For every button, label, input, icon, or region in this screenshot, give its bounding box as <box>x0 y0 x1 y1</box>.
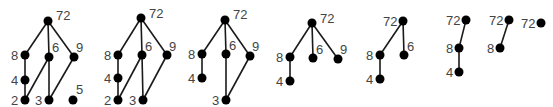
node-label: 4 <box>104 71 111 86</box>
node-3 <box>222 96 231 105</box>
node-72 <box>537 19 546 28</box>
node-label: 8 <box>276 50 283 65</box>
node-label: 6 <box>145 39 152 54</box>
node-label: 4 <box>11 73 18 88</box>
hasse-7: 728 <box>487 13 514 56</box>
edge-72-8 <box>118 18 141 55</box>
node-label: 2 <box>11 93 18 107</box>
node-label: 8 <box>487 41 494 56</box>
node-label: 6 <box>229 38 236 53</box>
node-4 <box>376 75 385 84</box>
node-8 <box>21 51 30 60</box>
node-72 <box>505 16 514 25</box>
edge-9-3 <box>226 56 250 100</box>
node-label: 9 <box>76 40 83 55</box>
node-8 <box>114 51 123 60</box>
node-label: 72 <box>383 14 397 29</box>
edge-9-3 <box>143 55 167 100</box>
node-label: 5 <box>76 82 83 97</box>
node-72 <box>399 17 408 26</box>
node-label: 72 <box>56 8 70 23</box>
node-label: 8 <box>366 48 373 63</box>
hasse-diagram-sequence: 7286942357286942372869437286947286472847… <box>0 0 553 107</box>
node-label: 72 <box>446 13 460 28</box>
node-8 <box>376 51 385 60</box>
node-3 <box>139 96 148 105</box>
hasse-8: 72 <box>521 16 546 31</box>
node-label: 4 <box>188 71 195 86</box>
node-8 <box>496 44 505 53</box>
node-label: 2 <box>104 93 111 107</box>
edge-72-6 <box>403 21 404 55</box>
node-label: 8 <box>446 41 453 56</box>
node-label: 9 <box>169 39 176 54</box>
node-4 <box>21 76 30 85</box>
node-label: 72 <box>149 6 163 21</box>
edge-6-3 <box>142 55 143 100</box>
node-label: 8 <box>188 47 195 62</box>
hasse-3: 7286943 <box>188 7 259 107</box>
node-label: 9 <box>252 39 259 54</box>
node-label: 3 <box>129 93 136 107</box>
node-label: 4 <box>276 74 283 89</box>
edge-72-6 <box>141 18 142 55</box>
node-72 <box>137 14 146 23</box>
edge-72-8 <box>202 20 225 54</box>
node-72 <box>308 19 317 28</box>
hasse-5: 72864 <box>366 14 414 87</box>
node-label: 4 <box>366 72 373 87</box>
hasse-1: 728694235 <box>11 8 83 107</box>
hasse-2: 72869423 <box>104 6 176 107</box>
node-label: 6 <box>52 40 59 55</box>
node-8 <box>286 53 295 62</box>
node-label: 72 <box>320 11 334 26</box>
hasse-6: 7284 <box>446 13 471 80</box>
edge-72-6 <box>48 21 49 57</box>
node-label: 9 <box>340 42 347 57</box>
edge-72-6 <box>225 20 226 54</box>
node-label: 72 <box>489 13 503 28</box>
node-4 <box>286 77 295 86</box>
edge-72-8 <box>25 21 48 55</box>
node-label: 72 <box>521 16 535 31</box>
node-label: 6 <box>316 42 323 57</box>
node-label: 8 <box>11 48 18 63</box>
node-2 <box>21 96 30 105</box>
node-label: 4 <box>446 65 453 80</box>
node-72 <box>462 16 471 25</box>
edge-72-6 <box>312 23 313 58</box>
edge-9-3 <box>49 57 74 100</box>
node-label: 8 <box>104 48 111 63</box>
node-3 <box>45 96 54 105</box>
node-8 <box>198 50 207 59</box>
node-4 <box>114 74 123 83</box>
diagram-canvas: 7286942357286942372869437286947286472847… <box>0 0 553 107</box>
node-label: 72 <box>233 7 247 22</box>
hasse-4: 728694 <box>276 11 347 89</box>
node-label: 3 <box>35 93 42 107</box>
edge-72-8 <box>290 23 312 57</box>
node-4 <box>198 74 207 83</box>
node-label: 3 <box>212 93 219 107</box>
node-8 <box>455 44 464 53</box>
node-72 <box>221 16 230 25</box>
node-2 <box>114 96 123 105</box>
node-label: 6 <box>407 39 414 54</box>
node-4 <box>455 68 464 77</box>
node-72 <box>44 17 53 26</box>
